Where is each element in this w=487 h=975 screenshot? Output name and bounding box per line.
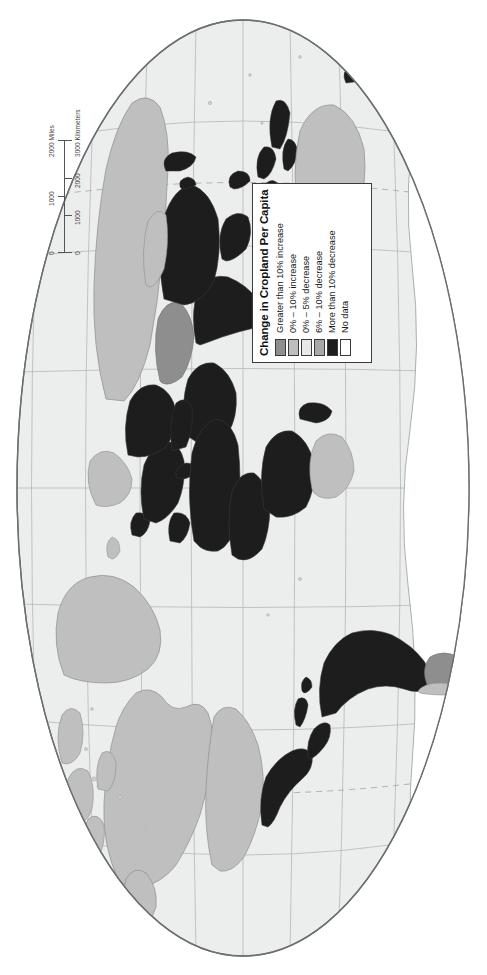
scalebar-axis (64, 141, 65, 253)
legend-label: More than 10% decrease (327, 230, 338, 333)
scalebar-tick-mi-1 (58, 196, 65, 197)
legend-label: 0% – 5% decrease (301, 256, 312, 333)
legend-item[interactable]: 0% – 5% decrease (300, 190, 313, 356)
region-south-america-south (424, 653, 467, 687)
scalebar-km-label-2: 2000 (74, 173, 81, 188)
legend-swatch-no-data (340, 339, 351, 356)
legend-items: Greater than 10% increase 0% – 10% incre… (274, 190, 352, 356)
scalebar-km-unit: 3000 Kilometers (74, 109, 81, 157)
scalebar-tick-km-0 (65, 252, 72, 253)
legend-item[interactable]: No data (339, 190, 352, 356)
legend-swatch-decrease-6-10 (314, 339, 325, 356)
scalebar-tick-km-2 (65, 178, 72, 179)
scalebar-mi-label-1: 1000 (48, 191, 55, 206)
map-page: 0 1000 2000 Miles 0 1000 2000 3000 Kilom… (0, 0, 487, 975)
scalebar-km-label-0: 0 (74, 251, 81, 255)
scalebar-km-label-1: 1000 (74, 210, 81, 225)
legend-item[interactable]: More than 10% decrease (326, 190, 339, 356)
legend-label: No data (340, 301, 351, 333)
scalebar-mi-label-0: 0 (48, 251, 55, 255)
legend-swatch-increase-0-10 (288, 339, 299, 356)
scalebar-tick-mi-2 (58, 140, 65, 141)
legend-swatch-decrease-0-5 (301, 339, 312, 356)
scalebar-tick-km-3 (65, 140, 72, 141)
legend-label: Greater than 10% increase (275, 223, 286, 333)
region-new-zealand (344, 62, 378, 83)
legend-label: 0% – 10% increase (288, 254, 299, 333)
legend-item[interactable]: Greater than 10% increase (274, 190, 287, 356)
legend-item[interactable]: 6% – 10% decrease (313, 190, 326, 356)
rotated-map-container: 0 1000 2000 Miles 0 1000 2000 3000 Kilom… (0, 0, 487, 975)
legend-swatch-increase-gt10 (275, 339, 286, 356)
legend-item[interactable]: 0% – 10% increase (287, 190, 300, 356)
map-legend: Change in Cropland Per Capita Greater th… (252, 183, 372, 363)
scale-bar: 0 1000 2000 Miles 0 1000 2000 3000 Kilom… (38, 125, 90, 275)
scalebar-tick-km-1 (65, 215, 72, 216)
legend-swatch-decrease-gt10 (327, 339, 338, 356)
scalebar-tick-mi-0 (58, 252, 65, 253)
legend-label: 6% – 10% decrease (314, 251, 325, 333)
scalebar-mi-unit: 2000 Miles (48, 125, 55, 157)
region-antarctica (403, 35, 470, 945)
legend-title: Change in Cropland Per Capita (258, 190, 270, 356)
